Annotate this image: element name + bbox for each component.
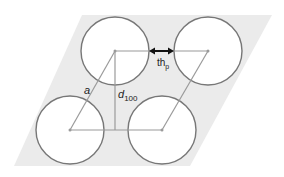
lattice-parameter-label: a [84,84,90,96]
diagram-canvas: a d100 thp [0,0,284,177]
hexagonal-pore-lattice-diagram: a d100 thp [0,0,284,177]
